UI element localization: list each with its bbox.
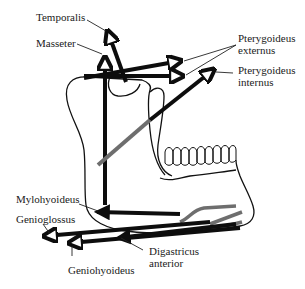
mandible-muscle-diagram: Temporalis Masseter Pterygoideus externu… [0, 0, 305, 289]
mylohyoideus-vector [97, 212, 180, 214]
label-pterygoideus-internus-line1: Pterygoideus [238, 64, 295, 76]
label-genioglossus: Genioglossus [16, 213, 75, 225]
mylohyoideus-grey-origin [180, 206, 236, 222]
label-masseter: Masseter [36, 37, 76, 49]
label-mylohyoideus: Mylohyoideus [16, 193, 80, 205]
label-digastricus-anterior-line1: Digastricus [149, 245, 199, 257]
teeth [165, 146, 236, 166]
label-digastricus-anterior-line2: anterior [149, 257, 183, 269]
label-pterygoideus-externus-line1: Pterygoideus [238, 32, 295, 44]
label-temporalis: Temporalis [36, 11, 85, 23]
label-geniohyoideus: Geniohyoideus [68, 264, 135, 276]
label-pterygoideus-externus-line2: externus [238, 44, 275, 56]
label-pterygoideus-internus-line2: internus [238, 76, 273, 88]
